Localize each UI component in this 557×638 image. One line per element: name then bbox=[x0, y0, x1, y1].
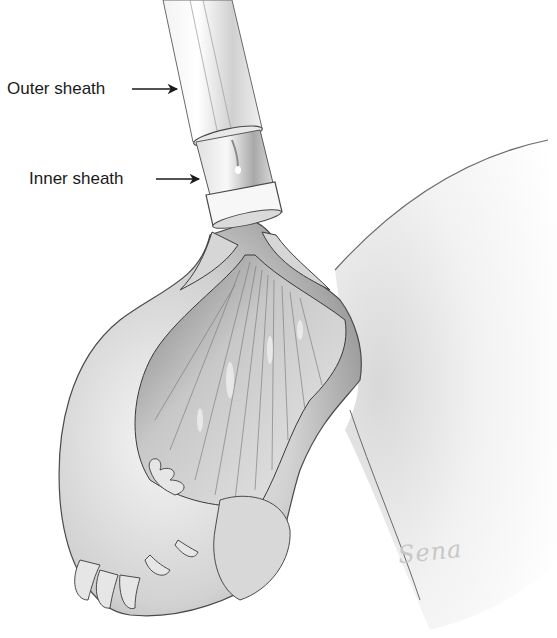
outer-sheath-label: Outer sheath bbox=[7, 80, 105, 97]
inner-sheath bbox=[196, 130, 282, 232]
sheath-assembly bbox=[163, 0, 282, 232]
outer-sheath bbox=[163, 0, 264, 150]
inner-sheath-label: Inner sheath bbox=[29, 170, 124, 187]
